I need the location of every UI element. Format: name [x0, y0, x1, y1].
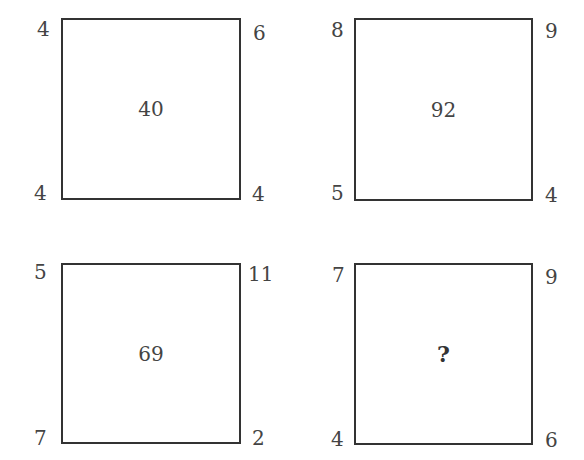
square-3-center: 69 — [138, 342, 163, 366]
square-2-bottom-right: 4 — [545, 185, 558, 205]
square-2-bottom-left: 5 — [331, 183, 344, 203]
square-1-center: 40 — [138, 97, 163, 121]
square-4-top-right: 9 — [545, 267, 558, 287]
square-1-top-right: 6 — [253, 23, 266, 43]
square-3: 69 — [61, 263, 241, 444]
square-2-top-left: 8 — [331, 20, 344, 40]
square-3-top-right: 11 — [248, 264, 273, 284]
square-1: 40 — [61, 18, 241, 200]
square-3-bottom-right: 2 — [252, 428, 265, 448]
square-3-top-left: 5 — [34, 262, 47, 282]
square-3-bottom-left: 7 — [34, 428, 47, 448]
square-4-top-left: 7 — [332, 265, 345, 285]
square-4-bottom-left: 4 — [331, 429, 344, 449]
square-1-top-left: 4 — [37, 19, 50, 39]
square-2-center: 92 — [431, 98, 456, 122]
square-4: ? — [354, 263, 533, 445]
square-1-bottom-left: 4 — [34, 183, 47, 203]
square-2-top-right: 9 — [545, 21, 558, 41]
square-2: 92 — [354, 18, 533, 201]
square-4-center-question-mark: ? — [437, 341, 450, 367]
square-4-bottom-right: 6 — [545, 430, 558, 450]
square-1-bottom-right: 4 — [252, 184, 265, 204]
